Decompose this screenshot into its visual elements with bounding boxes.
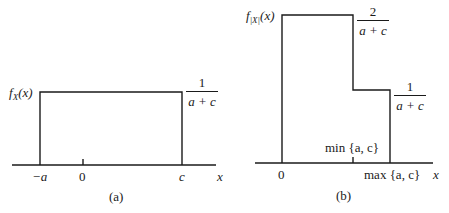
panel-b-tick-max: max {a, c} <box>364 168 420 181</box>
panel-a-x-axis-label: x <box>217 170 223 183</box>
panel-b-high-denominator: a + c <box>357 20 389 37</box>
panel-a-uniform-density <box>40 92 182 165</box>
panel-b-tick-zero: 0 <box>278 168 285 181</box>
panel-a-y-label: fX(x) <box>9 86 33 102</box>
panel-a-tick-zero: 0 <box>79 170 86 183</box>
panel-a-y-arg: (x) <box>18 85 32 100</box>
panel-a-height-denominator: a + c <box>186 91 218 108</box>
panel-b-high-numerator: 2 <box>357 5 389 20</box>
panel-b-low-denominator: a + c <box>394 95 426 112</box>
panel-b-y-label: f|X|(x) <box>246 9 275 25</box>
panel-b-y-arg: (x) <box>260 8 274 23</box>
panel-b-low-numerator: 1 <box>394 80 426 95</box>
panel-b-tick-min: min {a, c} <box>325 141 379 154</box>
panel-b-x-axis-label: x <box>433 168 439 181</box>
panel-b-low-fraction: 1 a + c <box>394 80 426 112</box>
panel-b-high-fraction: 2 a + c <box>357 5 389 37</box>
panel-a-tick-c: c <box>179 170 185 183</box>
panel-a-height-numerator: 1 <box>186 76 218 91</box>
panel-a-caption: (a) <box>109 190 123 203</box>
panel-b-y-sub: |X| <box>250 15 260 25</box>
panel-a-height-fraction: 1 a + c <box>186 76 218 108</box>
panel-a-tick-neg-a: −a <box>32 170 47 183</box>
panel-b-caption: (b) <box>336 189 351 202</box>
